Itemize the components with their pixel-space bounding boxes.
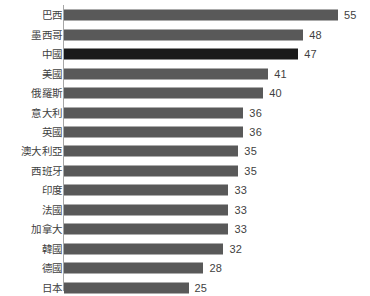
category-label: 印度: [0, 184, 62, 196]
bar-value-label: 40: [269, 87, 282, 99]
bar-row: 墨西哥48: [0, 25, 370, 45]
bar-value-label: 25: [195, 282, 208, 294]
bar-row: 西班牙35: [0, 161, 370, 181]
bar: [64, 263, 203, 274]
category-label: 韓國: [0, 243, 62, 255]
bar-row: 加拿大33: [0, 219, 370, 239]
bar-value-label: 33: [234, 204, 247, 216]
category-label: 澳大利亞: [0, 145, 62, 157]
bar: [64, 68, 268, 79]
bar: [64, 126, 243, 137]
bar-highlighted: [64, 49, 298, 60]
bar-row: 澳大利亞35: [0, 142, 370, 162]
category-label: 中國: [0, 48, 62, 60]
bar-row: 美國41: [0, 64, 370, 84]
bar: [64, 165, 238, 176]
bar-row: 法國33: [0, 200, 370, 220]
category-label: 俄羅斯: [0, 87, 62, 99]
plot-area: 巴西55墨西哥48中國47美國41俄羅斯40意大利36英國36澳大利亞35西班牙…: [0, 0, 370, 296]
bar: [64, 146, 238, 157]
bar: [64, 29, 303, 40]
bar: [64, 204, 228, 215]
category-label: 法國: [0, 204, 62, 216]
bar: [64, 10, 338, 21]
bar-row: 日本25: [0, 278, 370, 296]
bar-value-label: 55: [344, 9, 357, 21]
bar-row: 英國36: [0, 122, 370, 142]
category-label: 墨西哥: [0, 29, 62, 41]
bar-row: 韓國32: [0, 239, 370, 259]
category-label: 西班牙: [0, 165, 62, 177]
bar-value-label: 48: [309, 29, 322, 41]
bar-row: 德國28: [0, 258, 370, 278]
bar-row: 俄羅斯40: [0, 83, 370, 103]
category-label: 美國: [0, 68, 62, 80]
category-label: 德國: [0, 262, 62, 274]
bar: [64, 224, 228, 235]
bar-value-label: 41: [274, 68, 287, 80]
bar: [64, 88, 263, 99]
bar-value-label: 36: [249, 107, 262, 119]
bar-row: 印度33: [0, 181, 370, 201]
bar-row: 中國47: [0, 44, 370, 64]
bar-value-label: 28: [209, 262, 222, 274]
bar-value-label: 47: [304, 48, 317, 60]
category-label: 意大利: [0, 107, 62, 119]
category-label: 日本: [0, 282, 62, 294]
bar-value-label: 35: [244, 165, 257, 177]
bar: [64, 107, 243, 118]
bar-value-label: 33: [234, 223, 247, 235]
category-label: 巴西: [0, 9, 62, 21]
bar-value-label: 36: [249, 126, 262, 138]
category-label: 加拿大: [0, 223, 62, 235]
bar-value-label: 35: [244, 145, 257, 157]
bar-row: 巴西55: [0, 6, 370, 26]
bar-value-label: 33: [234, 184, 247, 196]
bar: [64, 243, 223, 254]
bar-value-label: 32: [229, 243, 242, 255]
category-label: 英國: [0, 126, 62, 138]
bar-row: 意大利36: [0, 103, 370, 123]
bar-chart: 巴西55墨西哥48中國47美國41俄羅斯40意大利36英國36澳大利亞35西班牙…: [0, 0, 370, 296]
bar: [64, 282, 189, 293]
bar: [64, 185, 228, 196]
